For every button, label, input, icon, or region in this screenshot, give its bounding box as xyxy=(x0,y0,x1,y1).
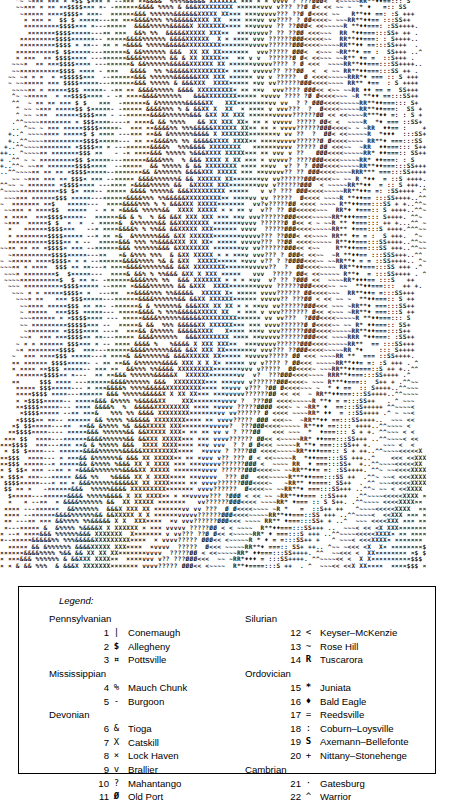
legend-unit-symbol: ? xyxy=(109,777,124,791)
legend-period-cambrian: Cambrian xyxy=(245,763,445,777)
legend-unit-name: Axemann–Bellefonte xyxy=(316,735,409,749)
legend-period-pennsylvanian: Pennsylvanian xyxy=(49,612,249,626)
legend-unit-row: 4%Mauch Chunk xyxy=(49,681,249,695)
legend-unit-number: 22 xyxy=(245,790,301,804)
ascii-map-canvas: ^~ ~¤¤¤ ¤¤¤ ¤ ¤$$ $¤¤¤ ¤ --¤¤¤ ¤¤&&&& %%… xyxy=(0,0,454,569)
legend-unit-row: 20+Nittany–Stonehenge xyxy=(245,749,445,763)
legend-period-mississippian: Mississippian xyxy=(49,667,249,681)
legend-unit-name: Juniata xyxy=(316,681,351,695)
legend-unit-symbol: | xyxy=(109,626,124,640)
legend-unit-number: 14 xyxy=(245,653,301,667)
legend-unit-symbol: × xyxy=(109,749,124,763)
legend-unit-name: Coburn–Loysville xyxy=(316,722,394,736)
legend-unit-name: Keyser–McKenzie xyxy=(316,626,397,640)
legend-unit-symbol: X xyxy=(109,736,124,750)
legend-title: Legend: xyxy=(59,595,93,606)
legend-unit-name: Pottsville xyxy=(124,653,166,667)
legend-unit-symbol: · xyxy=(301,777,316,791)
geologic-map: ^~ ~¤¤¤ ¤¤¤ ¤ ¤$$ $¤¤¤ ¤ --¤¤¤ ¤¤&&&& %%… xyxy=(0,0,454,572)
legend-unit-symbol: R xyxy=(301,653,316,667)
legend-unit-symbol: - xyxy=(109,695,124,709)
legend-unit-symbol: S xyxy=(301,735,316,749)
legend-unit-number: 2 xyxy=(49,640,109,654)
legend-unit-number: 12 xyxy=(245,626,301,640)
legend-unit-number: 9 xyxy=(49,763,109,777)
legend-unit-number: 15 xyxy=(245,681,301,695)
legend-unit-name: Lock Haven xyxy=(124,749,179,763)
legend-unit-name: Conemaugh xyxy=(124,626,180,640)
legend-unit-number: 6 xyxy=(49,722,109,736)
legend-unit-row: 22^Warrior xyxy=(245,790,445,804)
legend-unit-row: 8×Lock Haven xyxy=(49,749,249,763)
legend-unit-name: Gatesburg xyxy=(316,777,365,791)
legend-unit-name: Nittany–Stonehenge xyxy=(316,749,407,763)
legend-unit-name: Rose Hill xyxy=(316,640,358,654)
legend-unit-row: 11ØOld Port xyxy=(49,790,249,804)
legend-unit-symbol: ¤ xyxy=(109,653,124,667)
legend-unit-number: 11 xyxy=(49,790,109,804)
legend-unit-row: 15*Juniata xyxy=(245,681,445,695)
legend-unit-name: Reedsville xyxy=(316,708,364,722)
legend-unit-name: Burgoon xyxy=(124,695,164,709)
legend-unit-row: 9vBrallier xyxy=(49,763,249,777)
legend-column-right: Silurian12<Keyser–McKenzie13~Rose Hill14… xyxy=(245,612,445,804)
legend-unit-symbol: + xyxy=(301,749,316,763)
legend-unit-symbol: ~ xyxy=(301,640,316,654)
legend-unit-symbol: $ xyxy=(109,640,124,654)
legend-unit-name: Tioga xyxy=(124,722,152,736)
legend-unit-number: 10 xyxy=(49,777,109,791)
legend-unit-row: 19SAxemann–Bellefonte xyxy=(245,735,445,749)
legend-panel: Legend: Pennsylvanian1|Conemaugh2$Allegh… xyxy=(18,586,436,774)
legend-unit-symbol: Ø xyxy=(109,790,124,804)
legend-unit-symbol: * xyxy=(301,681,316,695)
legend-unit-number: 8 xyxy=(49,749,109,763)
legend-unit-symbol: v xyxy=(109,763,124,777)
legend-unit-row: 5-Burgoon xyxy=(49,695,249,709)
legend-unit-number: 19 xyxy=(245,735,301,749)
legend-unit-number: 5 xyxy=(49,695,109,709)
legend-unit-row: 12<Keyser–McKenzie xyxy=(245,626,445,640)
legend-unit-number: 18 xyxy=(245,722,301,736)
legend-unit-row: 18:Coburn–Loysville xyxy=(245,722,445,736)
legend-unit-row: 14RTuscarora xyxy=(245,653,445,667)
legend-unit-name: Warrior xyxy=(316,790,351,804)
legend-unit-symbol: < xyxy=(301,626,316,640)
legend-unit-number: 16 xyxy=(245,695,301,709)
legend-unit-row: 1|Conemaugh xyxy=(49,626,249,640)
legend-unit-number: 3 xyxy=(49,653,109,667)
legend-unit-name: Catskill xyxy=(124,736,159,750)
legend-unit-number: 20 xyxy=(245,749,301,763)
legend-unit-row: 2$Allegheny xyxy=(49,640,249,654)
legend-unit-name: Mahantango xyxy=(124,777,181,791)
legend-unit-name: Old Port xyxy=(124,790,163,804)
legend-unit-symbol: = xyxy=(301,708,316,722)
legend-unit-symbol: ^ xyxy=(301,790,316,804)
legend-unit-row: 10?Mahantango xyxy=(49,777,249,791)
legend-unit-name: Mauch Chunk xyxy=(124,681,187,695)
legend-unit-name: Tuscarora xyxy=(316,653,363,667)
legend-period-devonian: Devonian xyxy=(49,708,249,722)
legend-unit-row: 16♦Bald Eagle xyxy=(245,695,445,709)
legend-unit-number: 17 xyxy=(245,708,301,722)
legend-unit-number: 21 xyxy=(245,777,301,791)
legend-unit-number: 13 xyxy=(245,640,301,654)
legend-unit-number: 7 xyxy=(49,736,109,750)
legend-unit-row: 6&Tioga xyxy=(49,722,249,736)
legend-unit-name: Brallier xyxy=(124,763,158,777)
legend-unit-row: 21·Gatesburg xyxy=(245,777,445,791)
legend-unit-number: 1 xyxy=(49,626,109,640)
legend-unit-symbol: % xyxy=(109,681,124,695)
legend-unit-symbol: ♦ xyxy=(301,695,316,709)
legend-unit-symbol: & xyxy=(109,722,124,736)
legend-period-silurian: Silurian xyxy=(245,612,445,626)
legend-unit-symbol: : xyxy=(301,722,316,736)
legend-unit-row: 13~Rose Hill xyxy=(245,640,445,654)
legend-column-left: Pennsylvanian1|Conemaugh2$Allegheny3¤Pot… xyxy=(49,612,249,804)
legend-unit-row: 17=Reedsville xyxy=(245,708,445,722)
legend-unit-name: Bald Eagle xyxy=(316,695,366,709)
legend-period-ordovician: Ordovician xyxy=(245,667,445,681)
legend-unit-row: 7XCatskill xyxy=(49,736,249,750)
legend-unit-name: Allegheny xyxy=(124,640,170,654)
legend-unit-number: 4 xyxy=(49,681,109,695)
legend-unit-row: 3¤Pottsville xyxy=(49,653,249,667)
